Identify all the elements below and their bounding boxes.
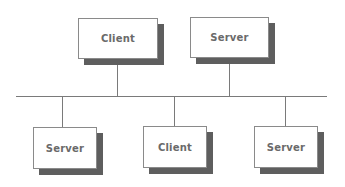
node-box: Server: [190, 17, 269, 58]
node-box: Server: [254, 126, 318, 168]
node-server-bottom-right: Server: [254, 126, 324, 174]
node-box: Client: [78, 18, 158, 59]
connector-top-server: [229, 63, 230, 96]
node-label: Server: [46, 143, 84, 154]
node-server-top: Server: [190, 17, 275, 64]
node-box: Client: [143, 126, 207, 168]
node-server-bottom-left: Server: [33, 127, 103, 175]
node-label: Client: [101, 33, 135, 44]
node-client-bottom: Client: [143, 126, 213, 174]
node-label: Client: [158, 142, 192, 153]
connector-bottom-server-right: [285, 96, 286, 126]
connector-bottom-server-left: [62, 96, 63, 127]
node-client-top: Client: [78, 18, 164, 65]
node-box: Server: [33, 127, 97, 169]
connector-top-client: [117, 64, 118, 96]
connector-bottom-client: [174, 96, 175, 126]
node-label: Server: [210, 32, 248, 43]
network-diagram: Client Server Server Client Server: [0, 0, 345, 187]
node-label: Server: [267, 142, 305, 153]
